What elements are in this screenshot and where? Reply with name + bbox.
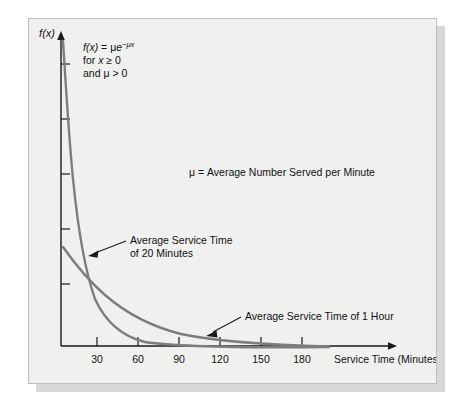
y-axis-label: f(x) (39, 27, 55, 39)
x-tick-labels: 30 60 90 120 150 180 (91, 353, 311, 365)
formula-line-3: and μ > 0 (83, 67, 127, 79)
exponential-distribution-chart: 30 60 90 120 150 180 Service Time (Minut… (29, 19, 437, 384)
formula-fx: f(x) (83, 41, 98, 53)
curve-1-hour (63, 247, 329, 347)
x-tick-label-180: 180 (293, 353, 311, 365)
x-axis-arrowhead (388, 342, 397, 350)
x-tick-label-30: 30 (91, 353, 103, 365)
x-tick-label-60: 60 (132, 353, 144, 365)
annotation-1-hour-arrowhead (206, 331, 218, 338)
x-axis-title: Service Time (Minutes) (334, 353, 437, 365)
annotation-1-hour-leader (213, 317, 241, 332)
curves-group (63, 41, 329, 347)
formula-line-2: for x ≥ 0 (83, 54, 121, 66)
y-axis-arrowhead (57, 31, 65, 40)
formula-line-1: f(x) = μe−μx (83, 40, 135, 53)
annotation-20-minutes: Average Service Time of 20 Minutes (88, 234, 233, 259)
x-tick-label-90: 90 (173, 353, 185, 365)
x-tick-label-150: 150 (252, 353, 270, 365)
chart-panel: 30 60 90 120 150 180 Service Time (Minut… (28, 18, 437, 384)
annotation-20-minutes-line1: Average Service Time (130, 234, 233, 246)
formula-line3-prefix: and (83, 67, 103, 79)
annotation-1-hour: Average Service Time of 1 Hour (206, 310, 394, 338)
formula-block: f(x) = μe−μx for x ≥ 0 and μ > 0 (83, 40, 135, 79)
formula-equals: = (98, 41, 110, 53)
annotation-20-minutes-line2: of 20 Minutes (130, 247, 193, 259)
mu-definition-note: μ = Average Number Served per Minute (189, 166, 375, 178)
curve-20-minutes (63, 41, 329, 347)
formula-exponent: −μx (122, 40, 134, 49)
formula-line2-prefix: for (83, 54, 98, 66)
annotation-20-minutes-leader (95, 241, 126, 253)
annotation-20-minutes-arrowhead (88, 251, 99, 258)
formula-line2-rest: ≥ 0 (103, 54, 121, 66)
annotation-1-hour-line1: Average Service Time of 1 Hour (245, 310, 394, 322)
x-tick-label-120: 120 (211, 353, 229, 365)
formula-line3-rest: > 0 (110, 67, 128, 79)
y-axis (57, 31, 70, 346)
figure-root: 30 60 90 120 150 180 Service Time (Minut… (0, 0, 469, 407)
